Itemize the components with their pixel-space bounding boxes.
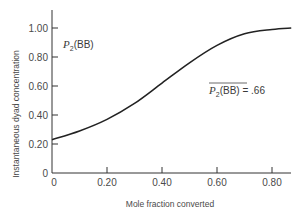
- x-tick-label: 0: [51, 177, 57, 188]
- curve-label: P2(BB): [62, 38, 94, 52]
- x-tick-label: 0.20: [97, 177, 117, 188]
- x-ticks: 00.200.400.600.80: [51, 167, 282, 188]
- x-tick-label: 0.60: [207, 177, 227, 188]
- average-label: P2(BB) = .66: [208, 84, 265, 98]
- y-tick-label: 0.20: [29, 139, 49, 150]
- x-tick-label: 0.40: [152, 177, 172, 188]
- chart: 00.200.400.600.801.00 00.200.400.600.80 …: [0, 0, 306, 215]
- y-ticks: 00.200.400.600.801.00: [29, 23, 58, 179]
- y-tick-label: 0.40: [29, 110, 49, 121]
- y-tick-label: 0.60: [29, 81, 49, 92]
- y-tick-label: 0: [42, 168, 48, 179]
- y-axis-label: Instantaneous dyad concentration: [11, 50, 21, 178]
- y-tick-label: 1.00: [29, 23, 49, 34]
- y-tick-label: 0.80: [29, 52, 49, 63]
- x-axis-label: Mole fraction converted: [126, 199, 215, 209]
- x-tick-label: 0.80: [262, 177, 282, 188]
